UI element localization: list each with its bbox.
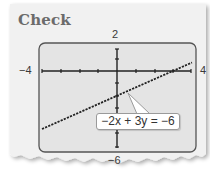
graph-screen bbox=[0, 0, 220, 178]
x-max-label: 4 bbox=[200, 64, 206, 76]
y-max-label: 2 bbox=[112, 28, 118, 40]
equation-callout: −2x + 3y = −6 bbox=[96, 113, 180, 130]
y-min-label: −6 bbox=[108, 154, 121, 166]
x-min-label: −4 bbox=[19, 64, 32, 76]
equation-label: −2x + 3y = −6 bbox=[101, 114, 174, 128]
